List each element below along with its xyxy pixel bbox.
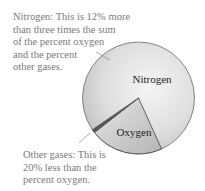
pie-chart: Nitrogen Oxygen: [0, 0, 205, 191]
other-gases-leader-line: [79, 133, 90, 143]
oxygen-label: Oxygen: [117, 126, 152, 138]
nitrogen-label: Nitrogen: [132, 73, 172, 85]
